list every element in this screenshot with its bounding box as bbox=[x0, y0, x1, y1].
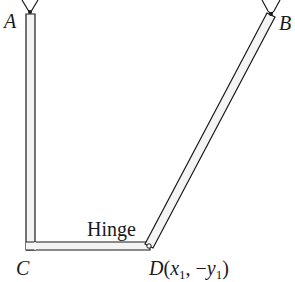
hinge-pin-d bbox=[147, 244, 151, 248]
hinged-rod-diagram: A B C Hinge D(x1, −y1) bbox=[0, 0, 295, 282]
rod-ac bbox=[26, 14, 35, 250]
label-b: B bbox=[279, 12, 291, 34]
label-hinge: Hinge bbox=[87, 218, 136, 241]
rod-bd bbox=[145, 13, 275, 248]
support-b-bracket bbox=[262, 0, 280, 13]
support-b bbox=[262, 0, 280, 13]
label-d-close-paren: ) bbox=[222, 257, 229, 280]
label-d-x: x bbox=[169, 257, 179, 279]
rod-cd bbox=[26, 242, 150, 250]
label-d-y: y bbox=[205, 257, 216, 280]
label-d-comma: , − bbox=[186, 257, 207, 279]
label-a: A bbox=[2, 10, 17, 32]
label-c: C bbox=[16, 257, 30, 279]
label-d: D bbox=[148, 257, 164, 279]
pivot-a bbox=[28, 10, 32, 14]
label-d-coordinates: D(x1, −y1) bbox=[148, 257, 229, 282]
pivot-b bbox=[269, 12, 273, 16]
